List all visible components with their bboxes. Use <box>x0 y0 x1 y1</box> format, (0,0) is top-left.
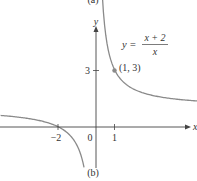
top-label: (a) <box>87 0 98 6</box>
x-axis-label: x <box>192 121 197 132</box>
chart: (a) y x −2 0 1 3 (1, 3) y = x + 2 x (b) <box>0 0 197 181</box>
point-1-3 <box>112 68 116 72</box>
x-tick-label-0: 0 <box>88 132 93 143</box>
point-label: (1, 3) <box>119 62 141 74</box>
curve-right-branch <box>102 0 197 101</box>
equation-denominator: x <box>152 46 158 57</box>
equation-numerator: x + 2 <box>143 32 165 43</box>
caption: (b) <box>87 167 99 179</box>
x-tick-label-neg2: −2 <box>51 132 62 143</box>
y-axis-label: y <box>93 16 99 27</box>
x-axis-arrow-icon <box>185 125 191 130</box>
equation-lhs: y = <box>121 39 136 50</box>
y-tick-label-3: 3 <box>85 65 90 76</box>
curve-left-branch <box>1 115 84 167</box>
x-tick-label-1: 1 <box>112 132 117 143</box>
